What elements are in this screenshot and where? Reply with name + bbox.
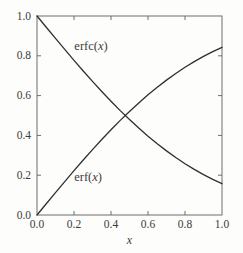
x-tick-label: 1.0 — [215, 218, 230, 230]
erf-label-annotation: erf(x) — [74, 170, 102, 184]
y-tick-label: 1.0 — [17, 10, 32, 22]
y-tick-label: 0.6 — [17, 89, 32, 101]
x-axis-title: x — [126, 233, 133, 247]
x-tick-label: 0.4 — [104, 218, 119, 230]
plot-box — [37, 16, 222, 215]
erf-erfc-figure: 0.00.20.40.60.81.00.00.20.40.60.81.0erfc… — [0, 0, 243, 253]
y-tick-label: 0.4 — [17, 129, 32, 141]
erfc-curve — [37, 16, 222, 184]
erf-curve — [37, 47, 222, 215]
y-tick-label: 0.0 — [17, 209, 32, 221]
x-tick-label: 0.6 — [141, 218, 156, 230]
y-tick-label: 0.8 — [17, 49, 32, 61]
x-tick-label: 0.0 — [30, 218, 45, 230]
x-tick-label: 0.2 — [67, 218, 82, 230]
erf-erfc-chart: 0.00.20.40.60.81.00.00.20.40.60.81.0erfc… — [0, 0, 243, 253]
x-tick-label: 0.8 — [178, 218, 193, 230]
y-tick-label: 0.2 — [17, 169, 32, 181]
erfc-label-annotation: erfc(x) — [74, 39, 107, 53]
